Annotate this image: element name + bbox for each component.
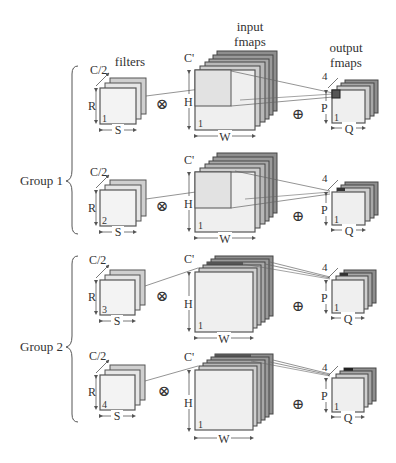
row-4: C/2 R 4 S ⊗ C' H 1 W ⊕ [88,349,376,446]
filter-height-label: R [88,201,96,215]
multiply-operator: ⊗ [156,96,169,112]
input-fmaps-title-line1: input [237,19,264,34]
add-operator: ⊕ [292,106,305,122]
group-2-brace [66,256,78,422]
input-width-label: W [219,232,231,246]
group-1-label: Group 1 [20,173,63,188]
input-channels-label: C' [184,153,194,167]
row-2: C/2 R 2 S ⊗ C' H 1 W ⊕ [88,153,378,246]
multiply-operator: ⊗ [158,383,171,399]
filter-channels-label: C/2 [89,349,106,363]
input-height-label: H [184,95,193,109]
add-operator: ⊕ [292,298,305,314]
input-height-label: H [184,297,193,311]
output-height-label: P [321,203,328,217]
input-channels-label: C' [184,51,194,65]
input-height-label: H [184,396,193,410]
input-index: 1 [198,320,203,331]
multiply-operator: ⊗ [156,198,169,214]
grouped-convolution-diagram: filters input fmaps output fmaps Group 1… [0,0,396,463]
output-pixel-highlight [332,90,340,98]
output-width-label: Q [344,312,353,326]
output-index: 1 [334,302,339,313]
output-fmaps-title-line2: fmaps [330,55,362,70]
add-operator: ⊕ [292,208,305,224]
filter-index: 3 [102,304,107,315]
output-width-label: Q [345,122,354,136]
output-channels-label: 4 [322,361,328,373]
output-height-label: P [321,101,328,115]
output-channels-label: 4 [322,70,328,82]
input-fmaps-title-line2: fmaps [234,34,266,49]
group-1-brace [66,66,78,234]
add-operator: ⊕ [292,396,305,412]
filter-width-label: S [114,314,121,328]
multiply-operator: ⊗ [156,288,169,304]
filter-width-label: S [115,225,122,239]
input-fmaps-stack [195,354,273,430]
input-fmaps-stack [195,51,277,130]
input-width-label: W [218,432,230,446]
group-2-label: Group 2 [20,339,63,354]
filter-channels-label: C/2 [90,165,107,179]
row-3: C/2 R 3 S ⊗ C' H 1 W ⊕ [88,252,376,346]
filter-index: 4 [102,399,107,410]
filter-height-label: R [88,99,96,113]
filter-width-label: S [115,123,122,137]
filter-channels-label: C/2 [90,63,107,77]
input-fmaps-stack [195,153,277,232]
input-width-label: W [219,130,231,144]
output-width-label: Q [345,224,354,238]
input-index: 1 [198,419,203,430]
output-height-label: P [321,389,328,403]
output-channels-label: 4 [322,172,328,184]
filter-index: 2 [102,215,107,226]
input-width-label: W [218,332,230,346]
filter-height-label: R [88,385,96,399]
filter-channels-label: C/2 [89,253,106,267]
output-index: 1 [334,401,339,412]
output-fmaps-title-line1: output [329,40,363,55]
output-height-label: P [321,291,328,305]
output-pixel-highlight [337,188,345,191]
output-width-label: Q [344,411,353,425]
input-index: 1 [198,118,203,129]
input-channels-label: C' [184,350,194,364]
input-index: 1 [198,220,203,231]
filter-index: 1 [102,113,107,124]
output-channels-label: 4 [322,261,328,273]
output-index: 1 [334,214,339,225]
input-height-label: H [184,197,193,211]
filter-width-label: S [114,409,121,423]
output-index: 1 [334,112,339,123]
filters-title: filters [115,54,145,69]
filter-height-label: R [88,290,96,304]
input-channels-label: C' [184,252,194,266]
